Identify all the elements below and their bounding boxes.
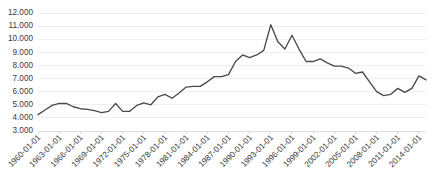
ytick-label: 12.000	[8, 8, 33, 17]
ytick-label: 9.000	[13, 48, 34, 57]
chart-xtick-labels: 1960-01-011963-01-011966-01-011969-01-01…	[6, 133, 423, 169]
chart-series-line	[38, 25, 426, 115]
chart-xtick-marks	[38, 131, 419, 134]
ytick-label: 3.000	[13, 126, 34, 135]
chart-container: 12.00011.00010.0009.0008.0007.0006.0005.…	[0, 0, 437, 185]
ytick-label: 5.000	[13, 100, 34, 109]
ytick-label: 8.000	[13, 61, 34, 70]
chart-gridlines	[38, 13, 426, 131]
chart-ytick-labels: 12.00011.00010.0009.0008.0007.0006.0005.…	[8, 8, 33, 135]
ytick-label: 6.000	[13, 87, 34, 96]
ytick-label: 4.000	[13, 113, 34, 122]
line-chart: 12.00011.00010.0009.0008.0007.0006.0005.…	[0, 0, 437, 185]
ytick-label: 11.000	[9, 21, 34, 30]
ytick-label: 10.000	[8, 34, 33, 43]
ytick-label: 7.000	[13, 74, 34, 83]
